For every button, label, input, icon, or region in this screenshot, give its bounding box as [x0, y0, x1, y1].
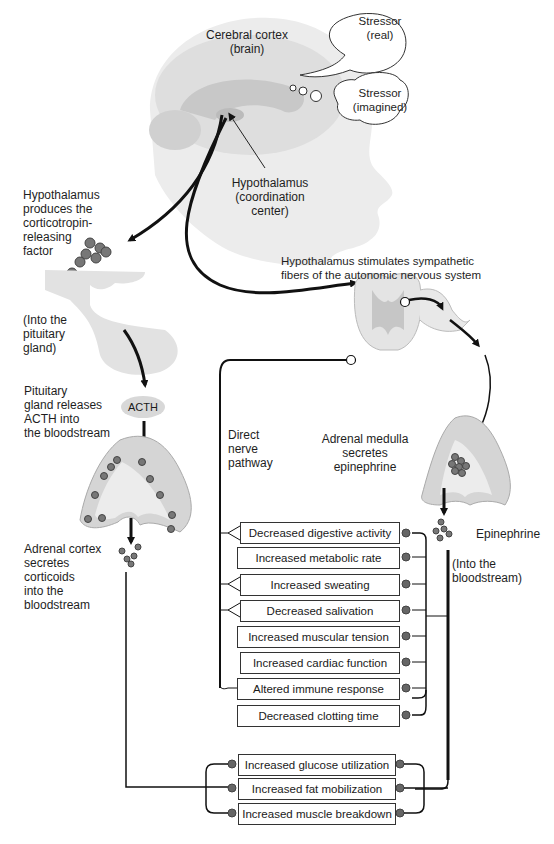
- label-line: fibers of the autonomic nervous system: [281, 268, 481, 282]
- label-line: produces the: [23, 202, 100, 216]
- label-line: gland): [23, 341, 67, 355]
- label-epinephrine: Epinephrine: [476, 527, 540, 541]
- effect-box-metabolic: Increased metabolic rate: [237, 547, 400, 569]
- label-direct-nerve-pathway: Direct nerve pathway: [228, 428, 273, 470]
- label-stressor-imagined: Stressor (imagined): [345, 86, 415, 114]
- label-line: bloodstream): [452, 571, 522, 585]
- label-into-pituitary: (Into the pituitary gland): [23, 313, 67, 355]
- label-line: the bloodstream: [24, 426, 110, 440]
- label-crf: Hypothalamus produces the corticotropin-…: [23, 188, 100, 258]
- label-line: nerve: [228, 442, 273, 456]
- label-line: pathway: [228, 456, 273, 470]
- label-line: secretes: [315, 446, 415, 460]
- label-line: (Into the: [452, 557, 522, 571]
- label-line: corticoids: [24, 570, 101, 584]
- label-line: pituitary: [23, 327, 67, 341]
- label-line: ACTH into: [24, 412, 110, 426]
- effect-box-fat: Increased fat mobilization: [238, 778, 396, 800]
- label-line: corticotropin-: [23, 216, 100, 230]
- label-line: secretes: [24, 556, 101, 570]
- label-line: Stressor: [345, 14, 415, 28]
- label-line: Hypothalamus stimulates sympathetic: [281, 254, 481, 268]
- label-line: center): [220, 204, 320, 218]
- effect-box-salivation: Decreased salivation: [240, 600, 400, 622]
- label-line: (imagined): [345, 100, 415, 114]
- acth-badge: ACTH: [121, 396, 165, 418]
- label-line: (brain): [192, 42, 302, 56]
- label-line: gland releases: [24, 398, 110, 412]
- label-line: epinephrine: [315, 460, 415, 474]
- effect-dots: [402, 529, 410, 719]
- label-line: into the: [24, 584, 101, 598]
- epinephrine-cells: [433, 519, 452, 541]
- label-line: Cerebral cortex: [192, 28, 302, 42]
- label-line: Hypothalamus: [220, 176, 320, 190]
- label-line: Hypothalamus: [23, 188, 100, 202]
- label-pituitary-releases: Pituitary gland releases ACTH into the b…: [24, 384, 110, 440]
- label-line: Direct: [228, 428, 273, 442]
- effect-box-muscular: Increased muscular tension: [237, 626, 400, 648]
- label-cerebral-cortex: Cerebral cortex (brain): [192, 28, 302, 56]
- effect-box-sweating: Increased sweating: [240, 574, 400, 596]
- label-into-bloodstream: (Into the bloodstream): [452, 557, 522, 585]
- label-line: (coordination: [220, 190, 320, 204]
- label-hypothalamus: Hypothalamus (coordination center): [220, 176, 320, 218]
- label-line: (Into the: [23, 313, 67, 327]
- effect-box-digestive: Decreased digestive activity: [240, 522, 400, 544]
- label-line: (real): [345, 28, 415, 42]
- label-stressor-real: Stressor (real): [345, 14, 415, 42]
- label-line: factor: [23, 244, 100, 258]
- effect-box-immune: Altered immune response: [237, 678, 400, 700]
- label-line: bloodstream: [24, 598, 101, 612]
- effect-box-cardiac: Increased cardiac function: [240, 652, 400, 674]
- label-line: Stressor: [345, 86, 415, 100]
- effect-box-muscle-breakdown: Increased muscle breakdown: [238, 803, 396, 825]
- label-line: Adrenal medulla: [315, 432, 415, 446]
- label-line: Adrenal cortex: [24, 542, 101, 556]
- label-line: Pituitary: [24, 384, 110, 398]
- label-sympathetic: Hypothalamus stimulates sympathetic fibe…: [281, 254, 481, 282]
- label-line: releasing: [23, 230, 100, 244]
- effect-box-clotting: Decreased clotting time: [237, 705, 400, 727]
- label-adrenal-cortex: Adrenal cortex secretes corticoids into …: [24, 542, 101, 612]
- cerebellum: [149, 110, 201, 150]
- label-adrenal-medulla: Adrenal medulla secretes epinephrine: [315, 432, 415, 474]
- corticoid-cells: [119, 544, 141, 567]
- spinal-cord: [354, 274, 470, 350]
- effect-box-glucose: Increased glucose utilization: [238, 754, 396, 776]
